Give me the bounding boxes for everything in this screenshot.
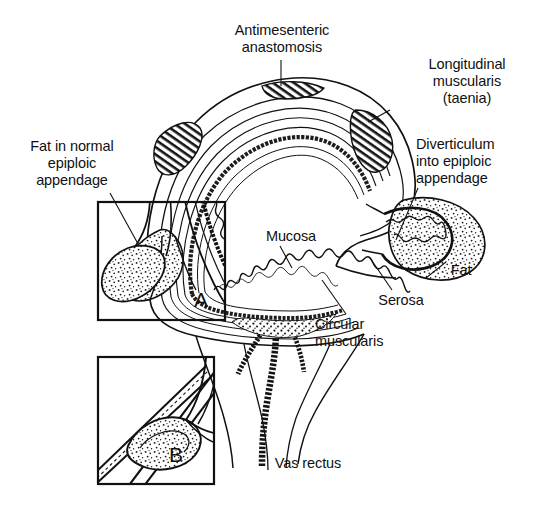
diverticulum-neck-upper bbox=[366, 204, 384, 214]
label-vas-rectus: Vas rectus bbox=[258, 455, 358, 472]
mucosa-secondary-wave bbox=[219, 266, 338, 287]
mesentery-right-edge bbox=[298, 334, 364, 464]
taenia-top-antimesenteric bbox=[262, 82, 324, 99]
diverticulum-neck-lower bbox=[362, 250, 382, 254]
label-fat: Fat bbox=[438, 262, 484, 279]
submucosa-line bbox=[204, 155, 358, 292]
inset-label-a: A bbox=[194, 288, 208, 312]
label-diverticulum-into-epiploic-appendage: Diverticulum into epiploic appendage bbox=[416, 136, 544, 187]
leader-mucosa bbox=[280, 246, 292, 268]
inset-a-wall-longitudinal bbox=[194, 196, 224, 282]
anatomical-figure: Antimesenteric anastomosis Longitudinal … bbox=[0, 0, 546, 518]
label-serosa: Serosa bbox=[366, 292, 436, 309]
label-longitudinal-muscularis-taenia: Longitudinal muscularis (taenia) bbox=[392, 56, 542, 107]
label-circular-muscularis: Circular muscularis bbox=[315, 316, 431, 350]
label-fat-in-normal-epiploic-appendage: Fat in normal epiploic appendage bbox=[2, 138, 142, 189]
mucosa-scalloped-border bbox=[214, 249, 410, 292]
label-antimesenteric-anastomosis: Antimesenteric anastomosis bbox=[196, 22, 368, 56]
serosa-outer-line bbox=[147, 78, 412, 300]
inset-label-b: B bbox=[169, 443, 183, 467]
bowel-cross-section bbox=[96, 60, 485, 486]
mesentery-inner-right bbox=[286, 344, 330, 468]
vas-rectus-vessel bbox=[262, 330, 276, 466]
label-mucosa: Mucosa bbox=[251, 228, 331, 245]
